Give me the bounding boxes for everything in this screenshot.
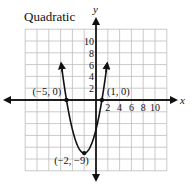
svg-text:4: 4 — [89, 71, 94, 82]
svg-text:2: 2 — [89, 83, 94, 94]
svg-text:8: 8 — [141, 102, 146, 113]
svg-text:(1, 0): (1, 0) — [107, 86, 130, 98]
chart-canvas: 246810246810 (−5, 0)(1, 0)(−2, −9) x y — [0, 0, 196, 186]
svg-text:8: 8 — [89, 48, 94, 59]
svg-text:10: 10 — [84, 36, 94, 47]
svg-text:(−2, −9): (−2, −9) — [54, 155, 89, 167]
svg-text:10: 10 — [150, 102, 160, 113]
svg-text:2: 2 — [105, 102, 110, 113]
svg-text:4: 4 — [117, 102, 122, 113]
svg-text:6: 6 — [89, 60, 94, 71]
svg-text:(−5, 0): (−5, 0) — [33, 86, 62, 98]
x-axis-label: x — [179, 94, 185, 106]
svg-text:6: 6 — [129, 102, 134, 113]
y-axis-label: y — [92, 3, 98, 15]
point-annotations: (−5, 0)(1, 0)(−2, −9) — [33, 86, 131, 167]
